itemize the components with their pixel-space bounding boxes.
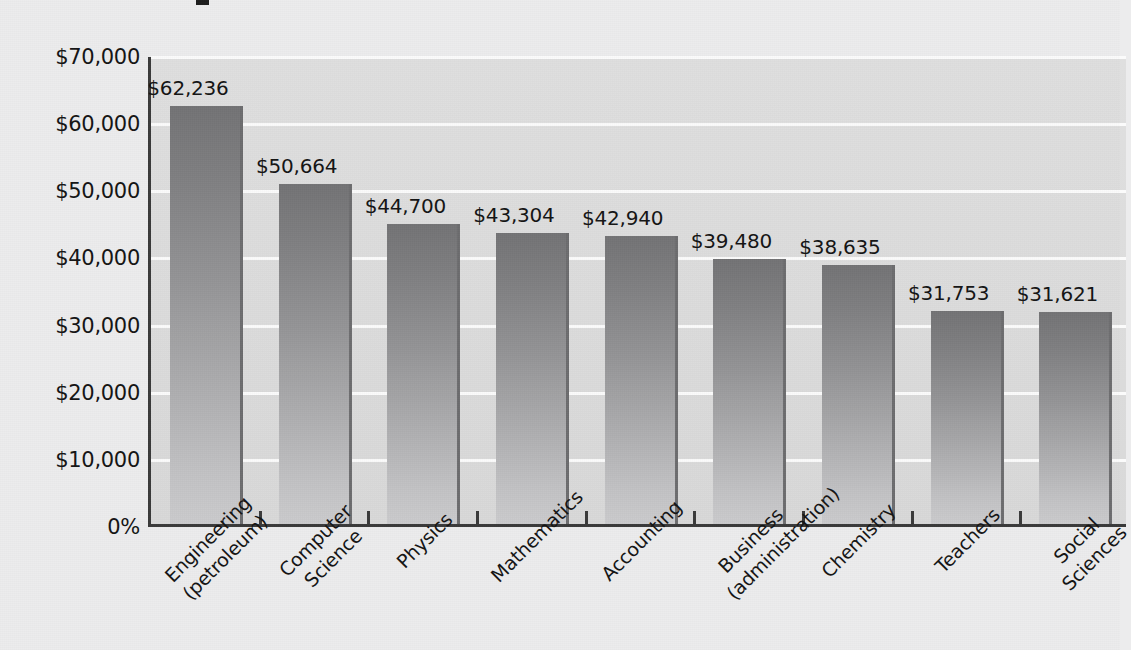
y-axis-tick-label: $20,000 xyxy=(40,381,140,405)
bar-value-label: $39,480 xyxy=(676,229,786,253)
y-axis-tick-label: $30,000 xyxy=(40,314,140,338)
bar-chart-average-starting-salaries: $70,000$60,000$50,000$40,000$30,000$20,0… xyxy=(40,16,1080,634)
cropped-title-fragment xyxy=(196,0,209,5)
x-axis-category-labels: Engineering(petroleum)ComputerSciencePhy… xyxy=(148,530,1126,650)
x-axis-tick xyxy=(802,511,805,524)
bar-value-label: $38,635 xyxy=(785,235,895,259)
bar[interactable] xyxy=(605,236,678,524)
bar-value-label: $31,753 xyxy=(894,281,1004,305)
y-axis-tick-label: $50,000 xyxy=(40,179,140,203)
y-axis-tick-label: 0% xyxy=(40,515,140,539)
bar-group[interactable]: $31,621 xyxy=(1020,57,1129,524)
bar-group[interactable]: $62,236 xyxy=(151,57,260,524)
bar-value-label: $44,700 xyxy=(350,194,460,218)
bar-value-label: $43,304 xyxy=(459,203,569,227)
x-axis-tick xyxy=(259,511,262,524)
bar[interactable] xyxy=(822,265,895,524)
x-axis-tick xyxy=(1019,511,1022,524)
bar[interactable] xyxy=(496,233,569,524)
bar[interactable] xyxy=(931,311,1004,524)
x-axis-tick xyxy=(585,511,588,524)
bar-value-label: $50,664 xyxy=(242,154,352,178)
bar[interactable] xyxy=(1039,312,1112,524)
plot-area: $62,236$50,664$44,700$43,304$42,940$39,4… xyxy=(148,57,1126,527)
bars-layer: $62,236$50,664$44,700$43,304$42,940$39,4… xyxy=(151,57,1126,524)
bar-value-label: $42,940 xyxy=(568,206,678,230)
y-axis: $70,000$60,000$50,000$40,000$30,000$20,0… xyxy=(40,16,140,634)
bar-value-label: $31,621 xyxy=(1002,282,1112,306)
bar-group[interactable]: $44,700 xyxy=(368,57,477,524)
bar[interactable] xyxy=(387,224,460,524)
bar[interactable] xyxy=(170,106,243,524)
x-axis-tick xyxy=(693,511,696,524)
x-axis-tick xyxy=(367,511,370,524)
bar-group[interactable]: $39,480 xyxy=(694,57,803,524)
bar-group[interactable]: $50,664 xyxy=(260,57,369,524)
bar-group[interactable]: $43,304 xyxy=(477,57,586,524)
bar-value-label: $62,236 xyxy=(133,76,243,100)
x-axis-tick xyxy=(911,511,914,524)
x-axis-tick xyxy=(476,511,479,524)
y-axis-tick-label: $70,000 xyxy=(40,45,140,69)
y-axis-tick-label: $40,000 xyxy=(40,246,140,270)
bar[interactable] xyxy=(279,184,352,524)
bar-group[interactable]: $42,940 xyxy=(586,57,695,524)
bar[interactable] xyxy=(713,259,786,524)
y-axis-tick-label: $60,000 xyxy=(40,112,140,136)
y-axis-tick-label: $10,000 xyxy=(40,448,140,472)
x-axis-ticks xyxy=(151,511,1126,527)
